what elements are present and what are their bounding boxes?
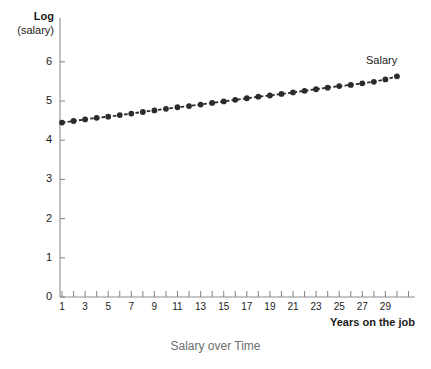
x-tick-label: 25	[329, 301, 349, 312]
x-tick-label: 17	[237, 301, 257, 312]
x-tick-label: 23	[306, 301, 326, 312]
x-axis-title: Years on the job	[330, 316, 415, 328]
y-tick-label: 0	[34, 291, 52, 302]
x-tick-label: 11	[168, 301, 188, 312]
x-tick-label: 13	[191, 301, 211, 312]
x-tick-label: 19	[260, 301, 280, 312]
y-tick-label: 3	[34, 173, 52, 184]
x-tick-label: 9	[144, 301, 164, 312]
y-tick-label: 4	[34, 134, 52, 145]
y-tick-label: 1	[34, 252, 52, 263]
chart-caption: Salary over Time	[0, 339, 431, 353]
x-tick-label: 1	[52, 301, 72, 312]
x-tick-label: 7	[121, 301, 141, 312]
y-tick-label: 5	[34, 95, 52, 106]
y-tick-label: 6	[34, 56, 52, 67]
x-tick-label: 5	[98, 301, 118, 312]
y-tick-label: 2	[34, 213, 52, 224]
x-tick-label: 3	[75, 301, 95, 312]
x-tick-label: 29	[375, 301, 395, 312]
x-tick-label: 21	[283, 301, 303, 312]
chart-container: Log (salary) 0123456 1357911131517192123…	[0, 0, 431, 369]
x-tick-label: 15	[214, 301, 234, 312]
x-tick-label: 27	[352, 301, 372, 312]
series-label-salary: Salary	[366, 54, 397, 66]
